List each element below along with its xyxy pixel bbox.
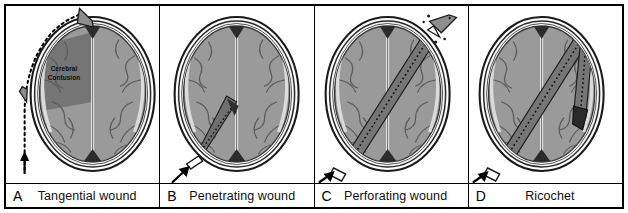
panel-b-penetrating-wound: B Penetrating wound xyxy=(160,6,314,207)
figure-frame: Cerebral Contusion A Tangential wound xyxy=(4,4,624,209)
panel-a-letter: A xyxy=(10,188,35,204)
panel-d-letter: D xyxy=(473,188,498,204)
panel-a-artwork: Cerebral Contusion xyxy=(6,6,159,183)
panel-a-tangential-wound: Cerebral Contusion A Tangential wound xyxy=(6,6,160,207)
panel-c-perforating-wound: C Perforating wound xyxy=(315,6,469,207)
panel-d-caption: D Ricochet xyxy=(469,183,622,207)
panel-b-letter: B xyxy=(164,188,189,204)
head-cross-section-b xyxy=(160,6,313,183)
head-cross-section-a xyxy=(6,6,159,183)
panel-c-caption: C Perforating wound xyxy=(315,183,468,207)
head-cross-section-c xyxy=(315,6,468,183)
panel-d-artwork xyxy=(469,6,622,183)
entry-direction-arrow-c xyxy=(319,171,334,182)
panel-row: Cerebral Contusion A Tangential wound xyxy=(6,6,622,207)
panel-c-artwork xyxy=(315,6,468,183)
panel-b-artwork xyxy=(160,6,313,183)
entry-direction-arrow-a xyxy=(20,151,29,174)
panel-a-caption: A Tangential wound xyxy=(6,183,159,207)
panel-b-caption-text: Penetrating wound xyxy=(189,189,311,203)
entry-direction-arrow-b xyxy=(173,166,190,182)
figure-container: Cerebral Contusion A Tangential wound xyxy=(0,0,628,213)
panel-b-caption: B Penetrating wound xyxy=(160,183,313,207)
panel-d-caption-text: Ricochet xyxy=(498,189,618,203)
panel-a-caption-text: Tangential wound xyxy=(35,189,155,203)
panel-c-caption-text: Perforating wound xyxy=(344,189,464,203)
panel-d-ricochet: D Ricochet xyxy=(469,6,622,207)
entry-direction-arrow-d xyxy=(473,171,488,182)
head-cross-section-d xyxy=(469,6,622,183)
panel-c-letter: C xyxy=(319,188,344,204)
